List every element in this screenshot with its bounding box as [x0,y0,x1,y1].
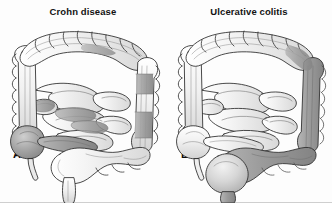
panel-crohn-disease: Crohn disease A [0,0,166,203]
ulcerative-colitis-bowel-illustration [166,18,332,203]
crohn-bowel-illustration [0,18,166,203]
panel-ulcerative-colitis: Ulcerative colitis B [166,0,332,203]
panel-title-crohn: Crohn disease [0,6,166,18]
panel-title-ulcerative-colitis: Ulcerative colitis [166,6,332,18]
figure-canvas: Crohn disease A [0,0,332,203]
